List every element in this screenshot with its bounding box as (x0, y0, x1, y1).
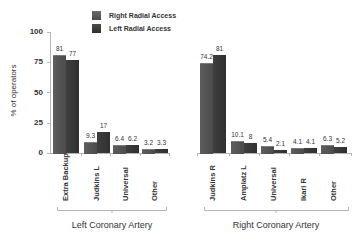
bar-universal-right-radial (113, 145, 126, 154)
value-label: 3.3 (150, 139, 174, 146)
category-label: Universal (121, 167, 130, 201)
category-label: Judkins R (208, 165, 217, 201)
value-label: 81 (208, 45, 232, 52)
category-label: Universal (269, 167, 278, 201)
value-label: 17 (92, 122, 116, 129)
bar-judkins-r-left-radial (213, 55, 226, 153)
group-label-left-coronary: Left Coronary Artery (60, 220, 164, 230)
category-label: Other (150, 181, 159, 201)
bar-universal-left-radial (274, 150, 287, 153)
bar-ikari-r-left-radial (304, 148, 317, 153)
category-label: Extra Backup (61, 153, 70, 201)
bar-other-left-radial (334, 147, 347, 153)
bar-judkins-r-right-radial (200, 63, 213, 154)
bar-other-right-radial (142, 149, 155, 154)
value-label: 5.2 (329, 137, 353, 144)
bar-other-left-radial (155, 149, 168, 153)
group-label-right-coronary: Right Coronary Artery (220, 220, 332, 230)
category-label: Ikari R (299, 178, 308, 201)
bar-other-right-radial (321, 145, 334, 154)
bar-universal-right-radial (261, 146, 274, 154)
bar-extra-backup-right-radial (53, 55, 66, 154)
bar-chart: Right Radial Access Left Radial Access %… (0, 0, 363, 242)
bar-universal-left-radial (126, 145, 139, 153)
bar-ikari-r-right-radial (291, 148, 304, 154)
bar-judkins-l-right-radial (84, 142, 97, 154)
value-label: 77 (61, 50, 85, 57)
category-label: Amplatz L (239, 165, 248, 201)
category-label: Other (329, 181, 338, 201)
bar-amplatz-l-left-radial (244, 143, 257, 153)
bar-amplatz-l-right-radial (231, 141, 244, 154)
category-label: Judkins L (92, 166, 101, 201)
bar-extra-backup-left-radial (66, 60, 79, 153)
